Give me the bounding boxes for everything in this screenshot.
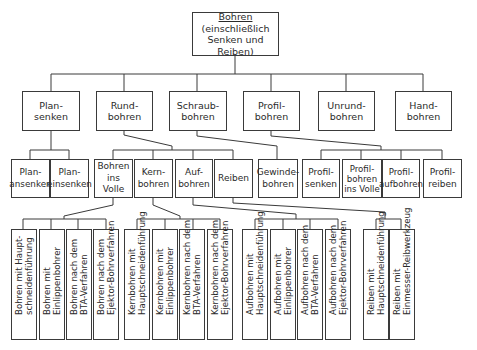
- node-label: Plan- einsenken: [47, 167, 92, 190]
- root-subtitle: (einschließlich Senken und Reiben): [193, 23, 278, 58]
- leaf-bohren-hauptschneidenfuehrung: Bohren mit Haupt- schneidenführung: [11, 229, 37, 340]
- leaf-label: Aufbohren nach dem Ejektor-Bohrverfahren: [328, 221, 348, 315]
- node-label: Bohren ins Volle: [95, 161, 132, 196]
- node-label: Profil- bohren ins Volle: [344, 164, 380, 194]
- node-plan-einsenken: Plan- einsenken: [50, 159, 89, 198]
- leaf-bohren-ejektor: Bohren nach dem Ejektor-Bohrverfahren: [93, 229, 119, 340]
- node-aufbohren: Auf- bohren: [175, 159, 213, 198]
- node-plan-ansenken: Plan- ansenken: [11, 159, 50, 198]
- node-unrundbohren: Unrund- bohren: [318, 91, 375, 131]
- node-label: Reiben: [218, 173, 249, 185]
- leaf-kernbohren-ejektor: Kernbohren nach dem Ejektor-Bohrverfahre…: [207, 229, 233, 340]
- node-label: Plan- ansenken: [9, 167, 51, 190]
- node-label: Profil- reiben: [428, 167, 457, 190]
- leaf-label: Kernbohren nach dem Ejektor-Bohrverfahre…: [210, 220, 230, 315]
- leaf-label: Bohren nach dem Ejektor-Bohrverfahren: [96, 221, 116, 315]
- leaf-label: Reiben mit Einmesser-Reibwerkzeug: [392, 208, 412, 316]
- node-schraubbohren: Schraub- bohren: [169, 91, 227, 131]
- node-label: Gewinde- bohren: [257, 167, 300, 190]
- node-reiben: Reiben: [214, 159, 253, 198]
- leaf-aufbohren-bta: Aufbohren nach dem BTA-Verfahren: [297, 229, 323, 340]
- leaf-label: Bohren nach dem BTA-Verfahren: [69, 239, 89, 315]
- leaf-label: Aufbohren nach dem BTA-Verfahren: [300, 225, 320, 315]
- leaf-label: Bohren mit Einlippenbohrer: [42, 247, 62, 315]
- node-profilbohren-ins-volle: Profil- bohren ins Volle: [342, 159, 382, 198]
- leaf-aufbohren-hauptschneidenfuehrung: Aufbohren mit Hauptschneidenführung: [242, 229, 268, 340]
- node-kernbohren: Kern- bohren: [134, 159, 173, 198]
- node-profilsenken: Profil- senken: [302, 159, 340, 198]
- node-bohren-ins-volle: Bohren ins Volle: [94, 159, 133, 198]
- node-label: Unrund- bohren: [327, 100, 365, 123]
- node-plansenken: Plan- senken: [22, 91, 80, 131]
- node-label: Schraub- bohren: [177, 100, 219, 123]
- leaf-bohren-bta: Bohren nach dem BTA-Verfahren: [66, 229, 92, 340]
- node-rundbohren: Rund- bohren: [96, 91, 153, 131]
- node-label: Kern- bohren: [138, 167, 170, 190]
- node-label: Profil- bohren: [255, 100, 288, 123]
- node-profilaufbohren: Profil- aufbohren: [382, 159, 420, 198]
- node-gewindebohren: Gewinde- bohren: [258, 159, 298, 198]
- leaf-label: Aufbohren mit Hauptschneidenführung: [245, 211, 265, 315]
- node-label: Hand- bohren: [407, 100, 440, 123]
- node-label: Rund- bohren: [108, 100, 141, 123]
- leaf-label: Bohren mit Haupt- schneidenführung: [14, 236, 34, 315]
- node-label: Profil- senken: [305, 167, 337, 190]
- node-label: Profil- aufbohren: [379, 167, 423, 190]
- leaf-bohren-einlippenbohrer: Bohren mit Einlippenbohrer: [39, 229, 65, 340]
- leaf-label: Kernbohren nach dem BTA-Verfahren: [182, 220, 202, 315]
- leaf-kernbohren-bta: Kernbohren nach dem BTA-Verfahren: [179, 229, 205, 340]
- leaf-kernbohren-einlippenbohrer: Kernbohren mit Einlippenbohrer: [152, 229, 178, 340]
- node-handbohren: Hand- bohren: [395, 91, 452, 131]
- leaf-label: Reiben mit Hauptschneidenführung: [366, 211, 386, 315]
- node-label: Auf- bohren: [178, 167, 210, 190]
- leaf-label: Kernbohren mit Hauptschneidenführung: [127, 211, 147, 315]
- node-profilbohren: Profil- bohren: [243, 91, 300, 131]
- leaf-label: Aufbohren mit Einlippenbohrer: [273, 247, 293, 315]
- node-profilreiben: Profil- reiben: [423, 159, 462, 198]
- node-label: Plan- senken: [34, 100, 68, 123]
- leaf-kernbohren-hauptschneidenfuehrung: Kernbohren mit Hauptschneidenführung: [124, 229, 150, 340]
- leaf-reiben-hauptschneidenfuehrung: Reiben mit Hauptschneidenführung: [363, 229, 389, 340]
- leaf-aufbohren-ejektor: Aufbohren nach dem Ejektor-Bohrverfahren: [325, 229, 351, 340]
- leaf-aufbohren-einlippenbohrer: Aufbohren mit Einlippenbohrer: [270, 229, 296, 340]
- leaf-reiben-einmesser: Reiben mit Einmesser-Reibwerkzeug: [389, 229, 415, 340]
- leaf-label: Kernbohren mit Einlippenbohrer: [155, 247, 175, 315]
- root-title: Bohren: [219, 11, 253, 23]
- root-node-bohren: Bohren (einschließlich Senken und Reiben…: [192, 12, 279, 56]
